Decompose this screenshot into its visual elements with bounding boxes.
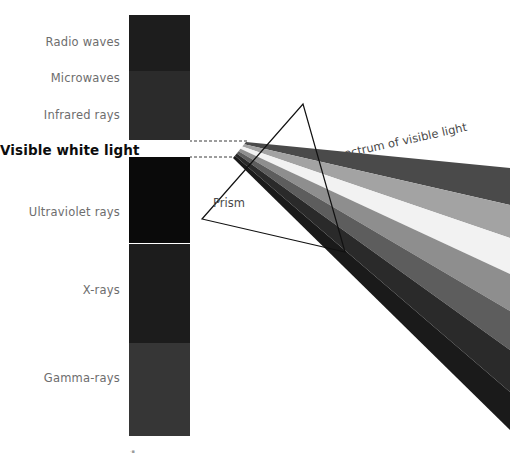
em-segment-infrared	[129, 107, 190, 140]
footer-mark: ·▪	[130, 448, 135, 454]
em-segment-ultraviolet	[129, 157, 190, 243]
spectrum-label-ultraviolet: Ultraviolet rays	[0, 205, 120, 219]
em-segment-gamma	[129, 343, 190, 436]
spectrum-label-radio: Radio waves	[0, 35, 120, 49]
spectrum-label-gamma: Gamma-rays	[0, 371, 120, 385]
prism-label: Prism	[213, 196, 245, 210]
spectrum-label-visible: Visible white light	[0, 142, 120, 158]
em-segment-xray	[129, 244, 190, 343]
electromagnetic-spectrum-bar	[129, 15, 190, 436]
diagram-canvas: Radio wavesMicrowavesInfrared raysVisibl…	[0, 0, 510, 458]
vector-layer	[0, 0, 510, 458]
em-segment-radio	[129, 15, 190, 71]
spectrum-label-infrared: Infrared rays	[0, 108, 120, 122]
em-segment-microwave	[129, 71, 190, 107]
dispersed-spectrum-bands	[233, 142, 510, 430]
spectrum-label-xray: X-rays	[0, 283, 120, 297]
spectrum-label-microwave: Microwaves	[0, 71, 120, 85]
